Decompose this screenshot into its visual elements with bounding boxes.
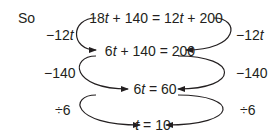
left-arrow-3 (80, 95, 140, 125)
op-left-3: ÷6 (55, 102, 70, 118)
intro-label: So (18, 10, 35, 26)
op-right-3: ÷6 (240, 102, 255, 118)
op-right-1: −12t (236, 27, 264, 43)
right-arrow-2 (178, 56, 225, 89)
op-left-2: −140 (44, 65, 76, 81)
equation-2: 6t + 140 = 200 (105, 43, 195, 59)
right-arrow-3 (166, 95, 223, 125)
op-left-1: −12t (46, 27, 74, 43)
left-arrow-2 (79, 56, 128, 89)
equation-1: 18t + 140 = 12t + 200 (89, 10, 223, 26)
equation-4: t = 10 (135, 117, 170, 133)
op-right-2: −140 (236, 65, 268, 81)
equation-3: 6t = 60 (133, 81, 176, 97)
